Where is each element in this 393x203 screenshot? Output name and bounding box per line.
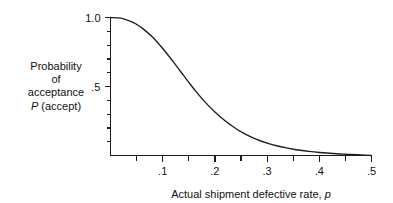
y-axis-ticks: [105, 18, 111, 142]
y-tick-label-1.0: 1.0: [85, 12, 100, 24]
x-tick-label-.3: .3: [263, 165, 272, 177]
x-tick-label-.2: .2: [210, 165, 219, 177]
x-axis-label-text: Actual shipment defective rate,: [171, 188, 324, 200]
x-axis-label: Actual shipment defective rate, p: [171, 188, 331, 200]
x-tick-label-.1: .1: [158, 165, 167, 177]
oc-curve-figure: Probability of acceptance P (accept) 1.0…: [0, 0, 393, 203]
x-axis-label-symbol: p: [324, 188, 331, 200]
oc-curve-line: [111, 18, 372, 156]
y-axis-tick-labels: 1.0 .5: [85, 12, 100, 93]
axes: [111, 18, 372, 156]
y-tick-label-0.5: .5: [91, 81, 100, 93]
x-tick-label-.5: .5: [367, 165, 376, 177]
x-axis-ticks: [137, 156, 372, 162]
plot-area: 1.0 .5 .1.2.3.4.5 Actual shipment defect…: [0, 0, 393, 203]
x-tick-label-.4: .4: [315, 165, 324, 177]
x-axis-tick-labels: .1.2.3.4.5: [158, 165, 376, 177]
